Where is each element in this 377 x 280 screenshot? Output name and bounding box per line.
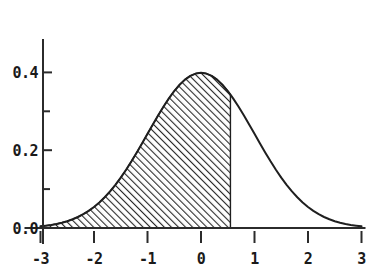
shaded-area-group [41, 73, 231, 228]
x-axis-ticks [41, 231, 362, 243]
x-tick-label: -2 [85, 250, 102, 268]
x-tick-label: -1 [139, 250, 157, 268]
chart-canvas: -3-2-10123 0.00.20.4 [0, 0, 377, 280]
y-tick-label: 0.4 [12, 64, 38, 82]
x-axis-tick-labels: -3-2-10123 [32, 250, 366, 268]
y-axis-ticks [43, 72, 52, 228]
y-tick-label: 0.2 [12, 142, 38, 160]
shaded-area-path [41, 73, 231, 228]
x-tick-label: 3 [357, 250, 366, 268]
y-tick-label: 0.0 [12, 220, 38, 238]
y-axis-tick-labels: 0.00.20.4 [12, 64, 38, 238]
x-tick-label: 2 [304, 250, 313, 268]
x-tick-label: 1 [250, 250, 259, 268]
x-tick-label: 0 [197, 250, 206, 268]
normal-distribution-chart: -3-2-10123 0.00.20.4 [0, 0, 377, 280]
x-tick-label: -3 [32, 250, 50, 268]
